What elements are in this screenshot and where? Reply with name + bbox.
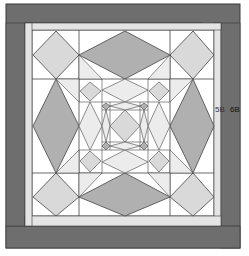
right-dark-border [221, 23, 240, 248]
label-5b: 5B [215, 105, 225, 114]
bottom-light-strip [25, 216, 221, 226]
right-light-strip [214, 23, 221, 226]
label-6b: 6B [230, 105, 240, 114]
top-light-strip [25, 23, 221, 30]
quilt-diagram [0, 0, 249, 256]
bottom-dark-border [6, 226, 240, 248]
left-dark-border [6, 23, 25, 226]
left-light-strip [25, 23, 32, 226]
